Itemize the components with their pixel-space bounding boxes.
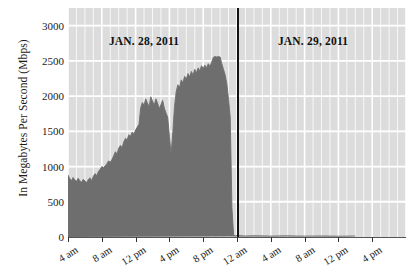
x-axis-tick-mark: [102, 237, 103, 242]
x-axis-tick-mark: [271, 237, 272, 242]
x-axis-tick-mark: [169, 237, 170, 242]
y-axis-tick-label: 1000: [2, 161, 64, 173]
x-axis-tick-mark: [237, 237, 238, 242]
x-axis-tick-mark: [136, 237, 137, 242]
y-axis-tick-label: 0: [2, 231, 64, 243]
x-axis-tick-mark: [203, 237, 204, 242]
x-axis-tick-label: 12 pm: [119, 244, 147, 267]
x-axis-tick-mark: [68, 237, 69, 242]
y-axis-tick-label: 500: [2, 196, 64, 208]
y-axis-tick-group: 050010001500200025003000: [0, 0, 64, 273]
plot-area: JAN. 28, 2011JAN. 29, 2011: [68, 8, 406, 237]
x-axis-tick-mark: [372, 237, 373, 242]
date-annotation-1: JAN. 28, 2011: [109, 35, 179, 47]
x-axis-tick-label: 8 am: [293, 244, 316, 264]
y-axis-tick-label: 3000: [2, 20, 64, 32]
x-axis-tick-mark: [305, 237, 306, 242]
x-axis-tick-label: 4 pm: [157, 244, 181, 265]
x-axis-tick-label: 4 am: [259, 244, 282, 264]
y-axis-tick-label: 1500: [2, 125, 64, 137]
y-axis-tick-label: 2500: [2, 55, 64, 67]
midnight-divider: [237, 8, 239, 237]
x-axis-tick-group: 4 am8 am12 pm4 pm8 pm12 am4 am8 am12 pm4…: [68, 237, 406, 273]
x-axis-tick-mark: [338, 237, 339, 242]
y-axis-tick-label: 2000: [2, 90, 64, 102]
x-axis-tick-label: 8 am: [90, 244, 113, 264]
x-axis-tick-label: 4 pm: [360, 244, 384, 265]
x-axis-tick-label: 12 am: [221, 244, 249, 267]
chart-figure: In Megabytes Per Second (Mbps) 050010001…: [0, 0, 420, 273]
x-axis-tick-label: 12 pm: [322, 244, 350, 267]
x-axis-tick-label: 8 pm: [191, 244, 215, 265]
date-annotation-2: JAN. 29, 2011: [278, 35, 348, 47]
